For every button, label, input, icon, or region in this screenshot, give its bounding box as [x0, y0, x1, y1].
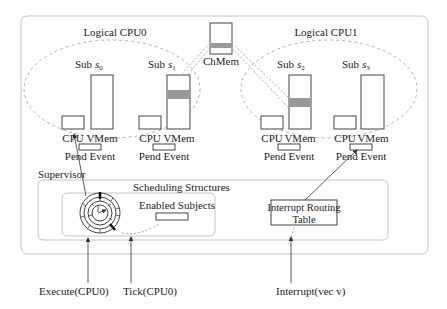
sub-prefix: Sub — [342, 58, 359, 70]
s0-pend-event-label: Pend Event — [65, 151, 115, 162]
s3-vmem-box — [361, 75, 384, 129]
logical-cpu1-label: Logical CPU1 — [294, 27, 357, 38]
sub-index: 3 — [366, 64, 370, 72]
sub-index: 0 — [99, 64, 103, 72]
s0-cpu-box — [62, 116, 84, 129]
s2-vmem-label: VMem — [284, 133, 315, 144]
s2-cpu-box — [261, 116, 283, 129]
enabled-subjects-box — [156, 213, 188, 220]
s0-cpu-label: CPU — [62, 133, 83, 144]
s1-pend-event-label: Pend Event — [139, 151, 189, 162]
scheduling-structures-label: Scheduling Structures — [133, 182, 230, 193]
sub-s2-label: Sub s2 — [277, 59, 305, 72]
interrupt-routing-line1: Interrupt Routing — [267, 203, 340, 214]
s3-cpu-box — [334, 116, 356, 129]
interrupt-to-table-line — [291, 226, 295, 237]
interrupt-routing-table-label: Interrupt Routing Table — [267, 203, 340, 225]
chmem-label: ChMem — [203, 56, 239, 67]
logical-cpu0-label: Logical CPU0 — [83, 27, 146, 38]
sub-prefix: Sub — [75, 58, 92, 70]
s3-cpu-label: CPU — [334, 133, 355, 144]
s1-cpu-label: CPU — [139, 133, 160, 144]
s3-pend-event-label: Pend Event — [336, 151, 386, 162]
s1-cpu-box — [139, 116, 161, 129]
s2-cpu-label: CPU — [261, 133, 282, 144]
sub-s1-label: Sub s1 — [148, 59, 176, 72]
s2-pend-event-label: Pend Event — [264, 151, 314, 162]
chmem-box — [210, 23, 232, 54]
interrupt-routing-line2: Table — [267, 215, 340, 226]
chmem-map-line — [232, 48, 289, 108]
interrupt-vec-label: Interrupt(vec v) — [276, 286, 345, 297]
sub-prefix: Sub — [277, 58, 294, 70]
s0-vmem-label: VMem — [86, 133, 117, 144]
sub-s3-label: Sub s3 — [342, 59, 370, 72]
s1-vmem-box — [167, 75, 190, 129]
schedule-wheel-icon — [80, 192, 120, 233]
execute-cpu0-label: Execute(CPU0) — [39, 286, 109, 297]
s1-vmem-shared-region — [168, 90, 190, 99]
enabled-subjects-label: Enabled Subjects — [139, 200, 215, 211]
tick-to-enabled-line — [122, 223, 160, 234]
sub-index: 2 — [301, 64, 305, 72]
s3-vmem-label: VMem — [357, 133, 388, 144]
chmem-shared-region — [211, 43, 232, 48]
s0-vmem-box — [91, 75, 113, 129]
s2-vmem-shared-region — [290, 98, 311, 107]
s1-vmem-label: VMem — [163, 133, 194, 144]
tick-cpu0-label: Tick(CPU0) — [123, 286, 177, 297]
sub-index: 1 — [172, 64, 176, 72]
sub-prefix: Sub — [148, 58, 165, 70]
sub-s0-label: Sub s0 — [75, 59, 103, 72]
supervisor-label: Supervisor — [38, 169, 86, 180]
